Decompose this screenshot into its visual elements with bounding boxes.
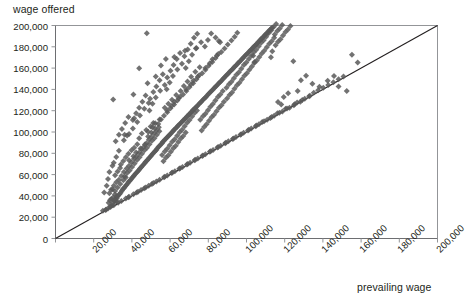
y-tick-label: 120,000 [0, 105, 48, 116]
y-axis-title: wage offered [13, 3, 75, 15]
y-tick-label: 60,000 [0, 169, 48, 180]
y-tick-label: 200,000 [0, 20, 48, 31]
y-tick-label: 180,000 [0, 41, 48, 52]
y-tick-label: 100,000 [0, 127, 48, 138]
y-tick-label: 0 [0, 233, 48, 244]
x-axis-title: prevailing wage [357, 281, 431, 293]
y-tick-label: 160,000 [0, 63, 48, 74]
y-tick-label: 20,000 [0, 212, 48, 223]
y-tick-label: 140,000 [0, 84, 48, 95]
scatter-points [100, 21, 361, 214]
y-tick-label: 40,000 [0, 190, 48, 201]
y-tick-label: 80,000 [0, 148, 48, 159]
